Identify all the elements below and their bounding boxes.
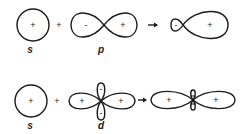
svg-text:+: + <box>207 20 212 30</box>
svg-text:+: + <box>120 20 125 30</box>
arrow-icon <box>148 23 158 28</box>
svg-text:-: - <box>175 20 178 30</box>
row-s-d: + s + + + - - d + + <box>15 83 235 131</box>
s-orbital-top: + s <box>17 9 49 55</box>
svg-text:d: d <box>98 120 105 131</box>
svg-text:-: - <box>100 84 103 94</box>
svg-text:s: s <box>27 44 33 55</box>
svg-text:p: p <box>97 44 104 55</box>
hybridization-diagram: + s + - + p - + + s + + <box>0 0 247 134</box>
arrow-icon <box>138 98 147 103</box>
svg-text:-: - <box>85 20 88 30</box>
p-orbital: - + p <box>71 13 137 55</box>
svg-text:-: - <box>100 108 103 118</box>
plus-operator: + <box>54 96 59 106</box>
svg-text:+: + <box>213 95 218 105</box>
sd-hybrid-orbital: + + <box>151 90 235 110</box>
plus-operator: + <box>56 20 61 30</box>
row-s-p: + s + - + p - + <box>17 9 228 55</box>
svg-text:+: + <box>30 20 35 30</box>
svg-text:+: + <box>118 96 123 106</box>
svg-text:+: + <box>28 96 33 106</box>
sp-hybrid-orbital: - + <box>171 11 228 38</box>
d-orbital: + + - - d <box>69 83 135 131</box>
svg-text:+: + <box>166 95 171 105</box>
svg-text:s: s <box>27 120 33 131</box>
svg-text:+: + <box>79 96 84 106</box>
s-orbital-bottom: + s <box>15 85 47 131</box>
